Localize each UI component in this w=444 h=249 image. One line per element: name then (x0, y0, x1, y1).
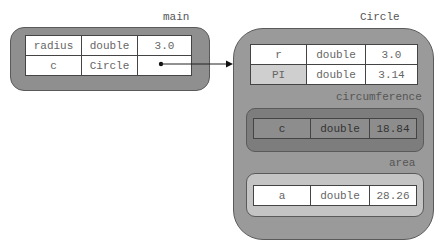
reference-arrow (0, 0, 444, 249)
arrowhead-icon (226, 61, 233, 68)
